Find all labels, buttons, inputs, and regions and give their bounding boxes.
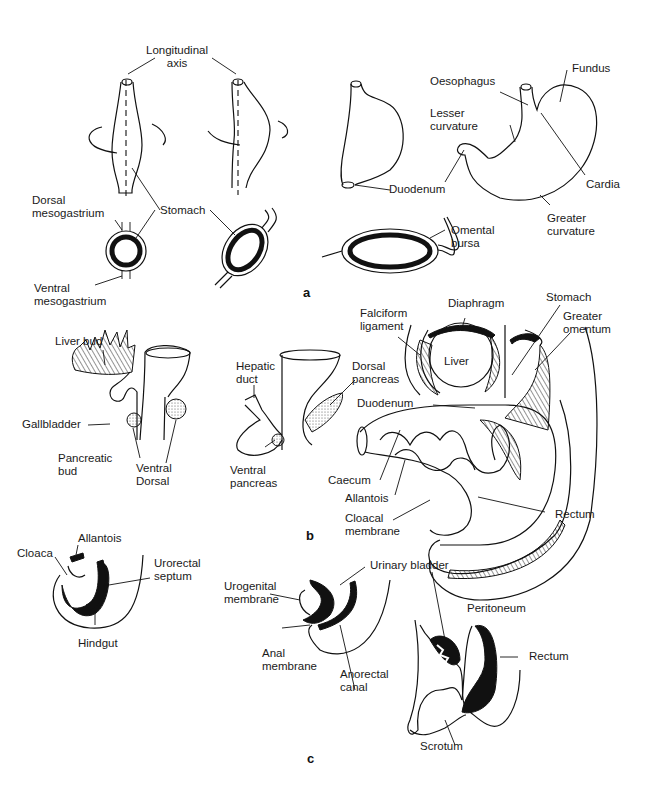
label-rectum-c: Rectum <box>529 650 569 663</box>
label-oesophagus: Oesophagus <box>430 75 495 88</box>
panel-label-a: a <box>303 285 310 300</box>
panel-label-c: c <box>307 751 314 766</box>
label-caecum: Caecum <box>328 474 371 487</box>
label-longitudinal-axis: Longitudinal axis <box>146 44 208 69</box>
label-allantois-b: Allantois <box>345 492 388 505</box>
label-allantois-c: Allantois <box>78 532 121 545</box>
urogenital-drawing <box>300 580 390 654</box>
label-greater-curvature: Greater curvature <box>547 212 595 237</box>
label-lesser-curvature: Lesser curvature <box>430 107 478 132</box>
stomach-tube-2 <box>208 79 288 195</box>
label-ventral-dorsal: Ventral Dorsal <box>136 462 172 487</box>
label-duodenum-a: Duodenum <box>389 183 445 196</box>
stomach-tube-1 <box>89 79 165 198</box>
label-rectum-b: Rectum <box>555 508 595 521</box>
panel-label-b: b <box>306 528 314 543</box>
stomach-section-3 <box>322 217 459 273</box>
stomach-outline-4 <box>458 84 597 200</box>
label-dorsal-mesogastrium: Dorsal mesogastrium <box>32 194 104 219</box>
label-ventral-mesogastrium: Ventral mesogastrium <box>34 282 106 307</box>
label-hindgut: Hindgut <box>78 637 118 650</box>
diagram-artwork <box>0 0 652 794</box>
label-urorectal-septum: Urorectal septum <box>154 557 201 582</box>
label-urogenital-membrane: Urogenital membrane <box>224 580 279 605</box>
label-falciform-ligament: Falciform ligament <box>360 307 407 332</box>
label-liver-bud: Liver bud <box>55 335 102 348</box>
label-liver: Liver <box>444 355 469 368</box>
label-hepatic-duct: Hepatic duct <box>236 360 275 385</box>
label-fundus: Fundus <box>572 62 610 75</box>
label-ventral-pancreas: Ventral pancreas <box>230 464 277 489</box>
cloaca-drawing <box>53 553 143 628</box>
stomach-section-2 <box>213 208 278 288</box>
label-anal-membrane: Anal membrane <box>262 647 317 672</box>
label-omental-bursa: Omental bursa <box>451 224 494 249</box>
label-stomach-b: Stomach <box>546 291 591 304</box>
label-dorsal-pancreas: Dorsal pancreas <box>352 360 399 385</box>
label-duodenum-b: Duodenum <box>357 397 413 410</box>
label-greater-omentum: Greater omentum <box>563 310 611 335</box>
label-pancreatic-bud: Pancreatic bud <box>58 452 112 477</box>
label-urinary-bladder: Urinary bladder <box>370 559 449 572</box>
label-cardia: Cardia <box>586 178 620 191</box>
stomach-outline-3 <box>341 81 403 188</box>
label-stomach-a: Stomach <box>160 204 205 217</box>
label-cloaca: Cloaca <box>17 547 53 560</box>
label-scrotum: Scrotum <box>420 740 463 753</box>
label-peritoneum: Peritoneum <box>467 602 526 615</box>
scrotum-rectum-drawing <box>408 620 520 735</box>
stomach-section-1 <box>106 222 146 279</box>
label-gallbladder: Gallbladder <box>22 418 81 431</box>
label-cloacal-membrane: Cloacal membrane <box>345 512 400 537</box>
leader-lines-a <box>95 58 585 285</box>
label-anorectal-canal: Anorectal canal <box>340 668 389 693</box>
label-diaphragm: Diaphragm <box>448 297 504 310</box>
